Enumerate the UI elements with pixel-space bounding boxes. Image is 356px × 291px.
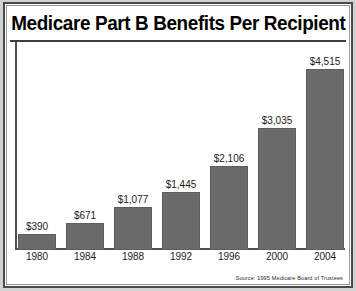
bar-value-label: $671 [74, 210, 96, 221]
bar-value-label: $4,515 [310, 56, 341, 67]
x-axis-tick-label: 1980 [18, 250, 56, 268]
bar-rect [114, 207, 152, 250]
bar-series: $390$671$1,077$1,445$2,106$3,035$4,515 [17, 42, 345, 250]
bar-rect [210, 166, 248, 250]
x-axis-tick-label: 1984 [66, 250, 104, 268]
x-axis-tick-label: 1992 [162, 250, 200, 268]
bar-item: $1,077 [114, 42, 152, 250]
bar-item: $4,515 [306, 42, 344, 250]
bar-item: $1,445 [162, 42, 200, 250]
chart-title-band: Medicare Part B Benefits Per Recipient [7, 6, 349, 40]
bar-value-label: $390 [26, 221, 48, 232]
bar-value-label: $2,106 [214, 153, 245, 164]
chart-inner-frame: Medicare Part B Benefits Per Recipient $… [6, 5, 350, 285]
bar-rect [66, 223, 104, 250]
chart-figure: Medicare Part B Benefits Per Recipient $… [0, 0, 356, 291]
x-axis-tick-label: 1988 [114, 250, 152, 268]
bar-value-label: $3,035 [262, 115, 293, 126]
x-axis-tick-labels: 1980198419881992199620002004 [17, 250, 345, 268]
chart-outer-frame: Medicare Part B Benefits Per Recipient $… [3, 2, 353, 288]
bar-value-label: $1,077 [118, 194, 149, 205]
plot-area: $390$671$1,077$1,445$2,106$3,035$4,515 1… [7, 42, 349, 284]
bar-rect [18, 234, 56, 250]
x-axis-tick-label: 2004 [306, 250, 344, 268]
bar-item: $2,106 [210, 42, 248, 250]
source-note: Source: 1995 Medicare Board of Trustees [236, 275, 343, 281]
bar-rect [306, 69, 344, 250]
x-axis-tick-label: 2000 [258, 250, 296, 268]
bar-item: $390 [18, 42, 56, 250]
bar-item: $3,035 [258, 42, 296, 250]
bar-item: $671 [66, 42, 104, 250]
bar-rect [258, 128, 296, 250]
page-title: Medicare Part B Benefits Per Recipient [11, 12, 345, 35]
bar-rect [162, 192, 200, 250]
bar-value-label: $1,445 [166, 179, 197, 190]
x-axis-tick-label: 1996 [210, 250, 248, 268]
